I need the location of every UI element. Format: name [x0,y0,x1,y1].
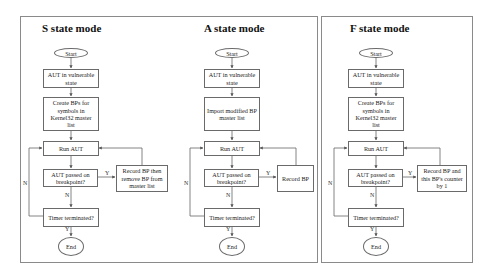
action-record-bp-s: Record BP then remove BP from master lis… [116,165,168,192]
connector-lines [0,0,492,274]
decision-timer-a: Timer terminated? [204,208,260,227]
action-record-bp-counter-f: Record BP and this BP's counter by 1 [417,165,467,192]
label-no-timer-s: N [65,192,69,198]
end-node-a: End [219,237,245,256]
diagram-title-f: F state mode [350,22,409,34]
label-yes-end-s: Y [65,226,69,232]
decision-timer-s: Timer terminated? [43,208,99,227]
step-run-aut-a: Run AUT [204,141,260,156]
start-node-a: Start [215,48,249,58]
end-node-f: End [363,237,389,256]
decision-breakpoint-s: AUT passed on breakpoint? [43,169,98,187]
label-no-loop-s: N [23,180,27,186]
label-yes-action-a: Y [266,170,270,176]
step-import-master-list-a: Import modified BP master list [204,97,260,131]
decision-breakpoint-a: AUT passed on breakpoint? [204,169,259,187]
label-no-timer-a: N [226,192,230,198]
decision-breakpoint-f: AUT passed on breakpoint? [348,169,403,187]
label-yes-end-a: Y [226,226,230,232]
label-no-loop-f: N [328,180,332,186]
decision-timer-f: Timer terminated? [348,208,404,227]
action-record-bp-a: Record BP [277,165,314,192]
diagram-title-s: S state mode [42,22,101,34]
end-node-s: End [58,237,84,256]
label-yes-action-f: Y [408,170,412,176]
step-vulnerable-state-a: AUT in vulnerable state [204,69,260,88]
start-node-f: Start [359,48,393,58]
label-yes-end-f: Y [370,226,374,232]
label-yes-action-s: Y [105,170,109,176]
step-vulnerable-state-f: AUT in vulnerable state [348,69,404,88]
step-run-aut-s: Run AUT [43,141,99,156]
step-create-bps-f: Create BPs for symbols in Kernel32 maste… [348,97,404,131]
start-node-s: Start [54,48,88,58]
label-no-loop-a: N [184,180,188,186]
step-vulnerable-state-s: AUT in vulnerable state [43,69,99,88]
label-no-timer-f: N [370,192,374,198]
step-run-aut-f: Run AUT [348,141,404,156]
diagram-title-a: A state mode [204,22,265,34]
step-create-bps-s: Create BPs for symbols in Kernel32 maste… [43,97,99,131]
